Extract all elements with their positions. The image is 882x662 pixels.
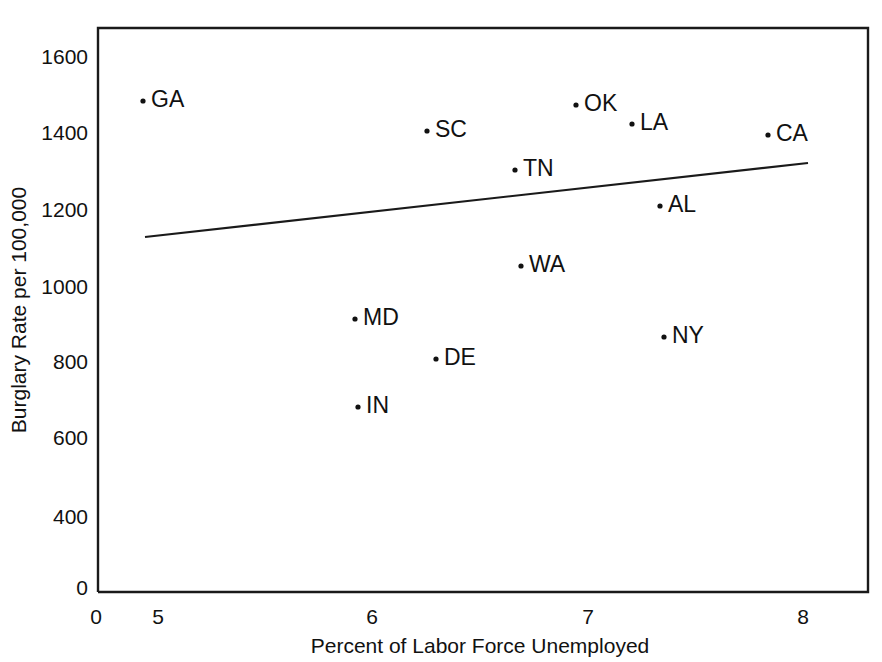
point-marker	[355, 404, 360, 409]
point-label: TN	[523, 155, 554, 181]
data-points-group: GA SC OK LA CA TN	[140, 86, 808, 418]
y-tick-label-1600: 1600	[41, 45, 88, 68]
plot-frame	[98, 28, 868, 592]
y-axis-title: Burglary Rate per 100,000	[7, 187, 30, 433]
point-marker	[352, 316, 357, 321]
y-tick-label-400: 400	[53, 505, 88, 528]
y-tick-label-1000: 1000	[41, 275, 88, 298]
point-label: MD	[363, 304, 399, 330]
data-point-ca: CA	[765, 120, 808, 146]
point-marker	[661, 334, 666, 339]
point-marker	[573, 102, 578, 107]
data-point-md: MD	[352, 304, 398, 330]
point-label: CA	[776, 120, 809, 146]
data-point-la: LA	[629, 109, 668, 135]
scatter-chart-figure: 1600 1400 1200 1000 800 600 400 0 0 5 6 …	[0, 0, 882, 662]
data-point-wa: WA	[518, 251, 565, 277]
regression-line	[145, 163, 808, 237]
y-tick-label-600: 600	[53, 426, 88, 449]
point-label: LA	[640, 109, 669, 135]
x-tick-label-8: 8	[797, 605, 809, 628]
data-point-al: AL	[657, 191, 696, 217]
data-point-de: DE	[433, 344, 476, 370]
y-tick-label-0: 0	[76, 576, 88, 599]
x-tick-label-6: 6	[366, 605, 378, 628]
data-point-ny: NY	[661, 322, 704, 348]
data-point-ga: GA	[140, 86, 184, 112]
y-tick-label-1400: 1400	[41, 121, 88, 144]
point-marker	[424, 128, 429, 133]
point-marker	[433, 356, 438, 361]
point-marker	[140, 98, 145, 103]
x-tick-label-5: 5	[152, 605, 164, 628]
point-label: AL	[668, 191, 696, 217]
x-axis-title: Percent of Labor Force Unemployed	[311, 634, 650, 657]
data-point-tn: TN	[512, 155, 553, 181]
point-label: GA	[151, 86, 185, 112]
data-point-sc: SC	[424, 116, 467, 142]
data-point-in: IN	[355, 392, 389, 418]
point-label: DE	[444, 344, 476, 370]
y-tick-label-800: 800	[53, 350, 88, 373]
chart-canvas: 1600 1400 1200 1000 800 600 400 0 0 5 6 …	[0, 0, 882, 662]
point-marker	[518, 263, 523, 268]
y-tick-label-1200: 1200	[41, 198, 88, 221]
point-label: OK	[584, 90, 618, 116]
x-tick-label-0: 0	[90, 605, 102, 628]
point-label: SC	[435, 116, 467, 142]
point-marker	[657, 203, 662, 208]
point-label: IN	[366, 392, 389, 418]
data-point-ok: OK	[573, 90, 617, 116]
point-marker	[765, 132, 770, 137]
point-marker	[512, 167, 517, 172]
point-marker	[629, 121, 634, 126]
point-label: NY	[672, 322, 704, 348]
point-label: WA	[529, 251, 566, 277]
x-tick-label-7: 7	[582, 605, 594, 628]
